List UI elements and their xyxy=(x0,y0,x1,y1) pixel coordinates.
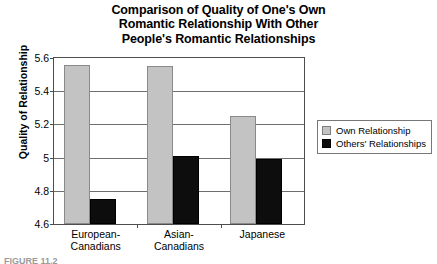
x-category-label-3: Japanese xyxy=(221,229,304,241)
plot-area: 4.64.855.25.45.6European-CanadiansAsian-… xyxy=(53,57,305,225)
x-tick-mark-2 xyxy=(221,224,222,228)
legend-item-own: Own Relationship xyxy=(322,124,426,137)
legend-label-own: Own Relationship xyxy=(336,125,410,136)
y-tick-label-5.2: 5.2 xyxy=(3,118,49,130)
legend-swatch-own-icon xyxy=(322,126,331,135)
y-tick-label-5: 5 xyxy=(3,152,49,164)
chart-title-line-2: Romantic Relationship With Other xyxy=(0,17,437,31)
y-tick-label-4.6: 4.6 xyxy=(3,218,49,230)
y-tick-mark-5.4 xyxy=(50,91,54,92)
bar-own-2 xyxy=(147,66,173,224)
gridline-y-5.4 xyxy=(54,91,304,92)
chart-title-line-1: Comparison of Quality of One's Own xyxy=(0,3,437,17)
y-tick-mark-5 xyxy=(50,158,54,159)
legend-item-others: Others' Relationships xyxy=(322,137,426,150)
figure-caption: FIGURE 11.2 xyxy=(4,256,58,264)
chart-title-line-3: People's Romantic Relationships xyxy=(0,32,437,46)
bar-chart-figure: Comparison of Quality of One's Own Roman… xyxy=(0,0,437,264)
chart-title: Comparison of Quality of One's Own Roman… xyxy=(0,3,437,46)
x-tick-mark-1 xyxy=(137,224,138,228)
chart-legend: Own Relationship Others' Relationships xyxy=(317,120,432,154)
y-tick-label-5.4: 5.4 xyxy=(3,85,49,97)
bar-others-3 xyxy=(256,159,282,224)
bar-others-1 xyxy=(90,199,116,224)
legend-label-others: Others' Relationships xyxy=(336,138,426,149)
bar-others-2 xyxy=(173,156,199,224)
bar-own-1 xyxy=(64,65,90,224)
y-tick-mark-5.6 xyxy=(50,58,54,59)
y-tick-mark-4.6 xyxy=(50,224,54,225)
gridline-y-5.2 xyxy=(54,124,304,125)
x-category-label-1: European-Canadians xyxy=(54,229,137,252)
y-tick-label-4.8: 4.8 xyxy=(3,185,49,197)
y-tick-mark-5.2 xyxy=(50,124,54,125)
y-tick-mark-4.8 xyxy=(50,191,54,192)
x-category-label-2: Asian-Canadians xyxy=(137,229,220,252)
legend-swatch-others-icon xyxy=(322,139,331,148)
bar-own-3 xyxy=(230,116,256,224)
y-tick-label-5.6: 5.6 xyxy=(3,52,49,64)
